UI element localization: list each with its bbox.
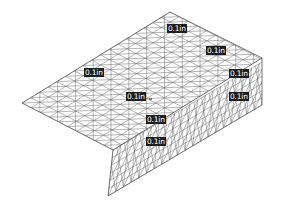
mesh-figure (0, 0, 288, 208)
element-size-label: 0.1in (84, 68, 104, 77)
probe-marker (149, 98, 152, 100)
element-size-label: 0.1in (146, 137, 166, 146)
element-size-label: 0.1in (126, 92, 146, 101)
element-size-label: 0.1in (167, 24, 187, 33)
element-size-label: 0.1in (206, 46, 226, 55)
element-size-label: 0.1in (229, 92, 249, 101)
element-size-label: 0.1in (146, 115, 166, 124)
element-size-label: 0.1in (229, 69, 249, 78)
